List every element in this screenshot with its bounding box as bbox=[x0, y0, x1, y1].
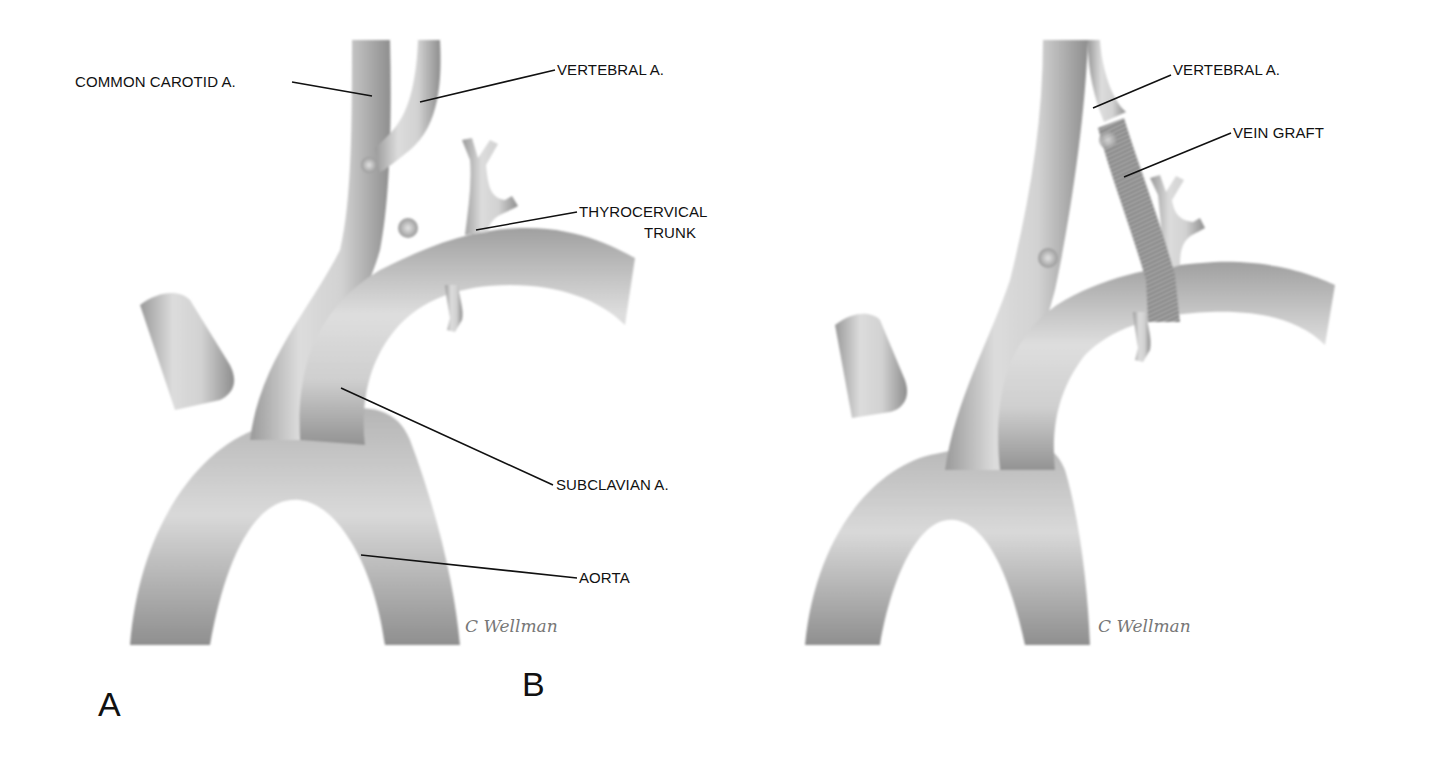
label-thyrocervical-trunk: TRUNK bbox=[644, 224, 696, 241]
panel-letter-a: A bbox=[98, 685, 121, 723]
label-thyrocervical: THYROCERVICAL bbox=[579, 203, 708, 220]
left-branch-vessel bbox=[140, 293, 234, 410]
thyrocervical-vessel bbox=[462, 138, 518, 235]
label-vein-graft: VEIN GRAFT bbox=[1233, 124, 1324, 141]
ligation-knot bbox=[361, 157, 377, 173]
aorta-vessel bbox=[130, 408, 460, 645]
label-vertebral: VERTEBRAL A. bbox=[1173, 61, 1280, 78]
figure-canvas: COMMON CAROTID A. VERTEBRAL A. THYROCERV… bbox=[0, 0, 1429, 761]
artist-signature: C Wellman bbox=[1098, 616, 1191, 636]
leader-vein-graft bbox=[1124, 133, 1231, 177]
artist-signature: C Wellman bbox=[465, 616, 558, 636]
leader-vertebral bbox=[420, 70, 555, 102]
aorta-vessel bbox=[805, 440, 1090, 645]
vertebral-vessel bbox=[1088, 40, 1126, 122]
label-vertebral: VERTEBRAL A. bbox=[557, 61, 664, 78]
label-subclavian: SUBCLAVIAN A. bbox=[556, 476, 669, 493]
panel-letter-b: B bbox=[522, 665, 545, 703]
panel-a-vessels bbox=[130, 40, 635, 645]
label-aorta: AORTA bbox=[579, 569, 630, 586]
ligation-knot bbox=[398, 218, 418, 238]
panel-b: VERTEBRAL A. VEIN GRAFT C Wellman B bbox=[522, 40, 1335, 703]
panel-a: COMMON CAROTID A. VERTEBRAL A. THYROCERV… bbox=[75, 40, 708, 723]
label-common-carotid: COMMON CAROTID A. bbox=[75, 73, 236, 90]
ligation-knot bbox=[1038, 248, 1058, 268]
left-branch-vessel bbox=[835, 314, 907, 418]
anastomosis bbox=[1099, 131, 1117, 149]
inferior-branch-vessel bbox=[445, 285, 463, 332]
